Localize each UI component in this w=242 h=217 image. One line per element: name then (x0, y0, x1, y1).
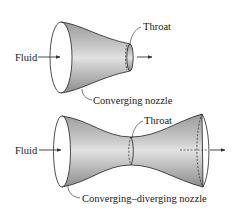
caption-leader-line (82, 89, 92, 100)
cd-nozzle-body (62, 114, 203, 187)
cd-nozzle-caption: Converging–diverging nozzle (82, 193, 207, 204)
converging-nozzle: Fluid Throat Converging nozzle (15, 21, 173, 107)
converging-nozzle-caption: Converging nozzle (93, 95, 173, 106)
throat-label: Throat (144, 115, 172, 126)
nozzle-diagram: Fluid Throat Converging nozzle Fluid Thr… (0, 0, 242, 217)
converging-diverging-nozzle: Fluid Throat Converging–diverging nozzle (15, 114, 225, 204)
caption-leader-line (68, 186, 80, 198)
throat-leader-line (130, 27, 141, 44)
inlet-opening (54, 116, 71, 187)
fluid-label: Fluid (15, 52, 38, 63)
throat-leader-line (132, 121, 143, 138)
throat-label: Throat (143, 21, 171, 32)
inlet-opening (50, 22, 72, 93)
throat-end-ellipse (127, 44, 133, 71)
fluid-label: Fluid (15, 145, 38, 156)
